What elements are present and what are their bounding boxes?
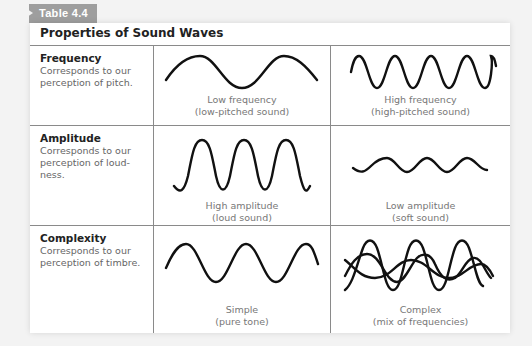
property-name: Complexity (40, 232, 150, 245)
table-row-frequency: Frequency Corresponds to our perception … (30, 46, 510, 126)
example-cell: High frequency (high-pitched sound) (331, 46, 510, 125)
property-description: Corresponds to our perception of pitch. (40, 65, 150, 89)
table-title: Properties of Sound Waves (40, 26, 223, 40)
caption: Low frequency (154, 94, 330, 106)
table-row-complexity: Complexity Corresponds to our perception… (30, 226, 510, 333)
high-amplitude-wave-icon (154, 136, 330, 198)
low-amplitude-wave-icon (331, 154, 510, 178)
property-cell: Complexity Corresponds to our perception… (30, 226, 154, 333)
caption: High amplitude (154, 200, 330, 212)
example-cell: Low frequency (low-pitched sound) (154, 46, 331, 125)
table-number-tab: Table 4.4 (29, 4, 97, 23)
table-row-amplitude: Amplitude Corresponds to our perception … (30, 126, 510, 226)
high-frequency-wave-icon (331, 52, 510, 92)
simple-wave-icon (154, 238, 330, 288)
arrow-icon (27, 9, 33, 17)
caption-sub: (pure tone) (154, 316, 330, 328)
property-cell: Amplitude Corresponds to our perception … (30, 126, 154, 225)
property-description: Corresponds to our perception of timbre. (40, 245, 150, 269)
low-frequency-wave-icon (154, 52, 330, 92)
example-cell: Low amplitude (soft sound) (331, 126, 510, 225)
caption-sub: (soft sound) (331, 212, 510, 224)
property-cell: Frequency Corresponds to our perception … (30, 46, 154, 125)
caption: Complex (331, 304, 510, 316)
complex-wave-icon (331, 234, 510, 298)
table: Properties of Sound Waves Frequency Corr… (30, 23, 510, 333)
caption: High frequency (331, 94, 510, 106)
caption-sub: (loud sound) (154, 212, 330, 224)
table-number: Table 4.4 (39, 4, 88, 23)
property-description: Corresponds to our perception of loud-ne… (40, 145, 150, 181)
example-cell: Simple (pure tone) (154, 226, 331, 333)
caption-sub: (high-pitched sound) (331, 106, 510, 118)
caption: Simple (154, 304, 330, 316)
caption-sub: (mix of frequencies) (331, 316, 510, 328)
example-cell: Complex (mix of frequencies) (331, 226, 510, 333)
example-cell: High amplitude (loud sound) (154, 126, 331, 225)
property-name: Frequency (40, 52, 150, 65)
caption: Low amplitude (331, 200, 510, 212)
property-name: Amplitude (40, 132, 150, 145)
caption-sub: (low-pitched sound) (154, 106, 330, 118)
table-title-row: Properties of Sound Waves (30, 23, 510, 46)
